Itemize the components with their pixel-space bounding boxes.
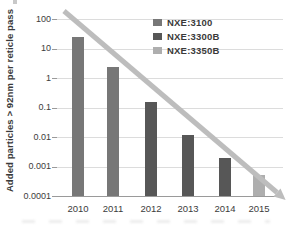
gridline: [57, 108, 283, 109]
bar-2010: [72, 37, 84, 196]
legend-label: NXE:3100: [167, 17, 212, 28]
particle-trend-chart: Added particles > 92nm per reticle pass …: [0, 0, 289, 227]
bar-2015: [253, 175, 265, 196]
y-tick-label: 0.0001: [0, 191, 51, 202]
y-tick-mark: [52, 137, 57, 138]
bar-2011: [107, 67, 119, 196]
y-tick-mark: [52, 19, 57, 20]
cropped-text-smudge: [22, 220, 270, 223]
x-tick-label: 2015: [242, 203, 276, 214]
x-tick-label: 2012: [134, 203, 168, 214]
legend-item: NXE:3300B: [153, 29, 220, 43]
legend-swatch-icon: [153, 47, 162, 54]
legend-swatch-icon: [153, 33, 162, 40]
plot-area: 1001010.10.010.0010.00012010201120122013…: [0, 0, 289, 227]
y-tick-mark: [52, 167, 57, 168]
y-tick-mark: [52, 78, 57, 79]
y-tick-label: 0.01: [0, 132, 51, 143]
gridline: [57, 78, 283, 79]
y-tick-label: 0.001: [0, 161, 51, 172]
legend-label: NXE:3300B: [167, 31, 220, 42]
legend-item: NXE:3100: [153, 15, 220, 29]
x-axis-line: [57, 196, 283, 197]
legend-label: NXE:3350B: [167, 45, 220, 56]
y-tick-label: 10: [0, 43, 51, 54]
y-tick-label: 100: [0, 14, 51, 25]
y-tick-label: 0.1: [0, 102, 51, 113]
x-tick-label: 2013: [171, 203, 205, 214]
legend-item: NXE:3350B: [153, 43, 220, 57]
legend: NXE:3100NXE:3300BNXE:3350B: [153, 15, 220, 57]
x-tick-label: 2011: [96, 203, 130, 214]
bar-2014: [219, 158, 231, 196]
bar-2012: [145, 102, 157, 196]
y-tick-mark: [52, 108, 57, 109]
bar-2013: [182, 135, 194, 196]
y-tick-mark: [52, 49, 57, 50]
legend-swatch-icon: [153, 19, 162, 26]
x-tick-label: 2014: [208, 203, 242, 214]
gridline: [57, 137, 283, 138]
y-tick-label: 1: [0, 73, 51, 84]
gridline: [57, 167, 283, 168]
x-tick-label: 2010: [61, 203, 95, 214]
y-tick-mark: [52, 196, 57, 197]
